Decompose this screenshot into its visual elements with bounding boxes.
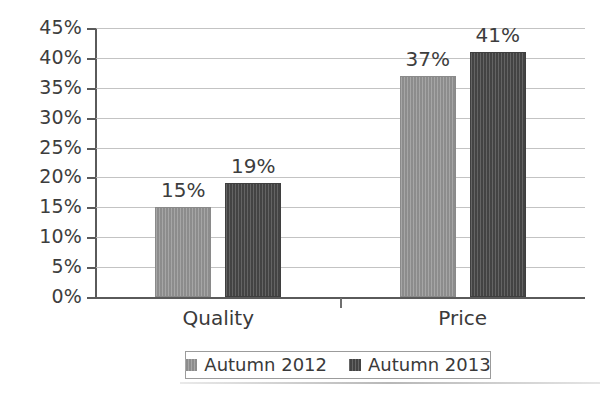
y-axis-tick-label: 15% [20, 197, 82, 216]
y-axis-tick [87, 237, 96, 239]
bar [400, 76, 456, 297]
y-axis-tick-label: 30% [20, 108, 82, 127]
y-axis-tick [87, 297, 96, 299]
bar-value-label: 41% [458, 25, 538, 45]
y-axis-tick [87, 118, 96, 120]
chart-legend: Autumn 2012Autumn 2013 [185, 351, 491, 379]
y-axis-tick-label: 25% [20, 138, 82, 157]
legend-item: Autumn 2013 [349, 356, 491, 374]
legend-swatch-icon [185, 359, 197, 371]
plot-area [96, 28, 585, 297]
x-axis-separator-tick [340, 298, 342, 308]
y-axis-tick [87, 177, 96, 179]
legend-item: Autumn 2012 [185, 356, 327, 374]
x-axis-category-label: Price [383, 307, 543, 329]
bar [225, 183, 281, 297]
x-axis-category-label: Quality [138, 307, 298, 329]
bar-chart: 45%40%35%30%25%20%15%10%5%0% QualityPric… [0, 0, 606, 411]
legend-label: Autumn 2012 [204, 356, 327, 374]
y-axis-tick-label: 10% [20, 227, 82, 246]
y-axis-tick-label: 40% [20, 48, 82, 67]
bar-value-label: 15% [143, 180, 223, 200]
y-axis-tick-label: 20% [20, 167, 82, 186]
scan-artifact [180, 382, 600, 384]
bar-value-label: 19% [213, 156, 293, 176]
y-axis-tick [87, 88, 96, 90]
y-axis-tick [87, 207, 96, 209]
bar-value-label: 37% [388, 49, 468, 69]
y-axis-tick [87, 148, 96, 150]
y-axis-tick-label: 35% [20, 78, 82, 97]
bar [155, 207, 211, 297]
legend-label: Autumn 2013 [368, 356, 491, 374]
y-axis-tick [87, 267, 96, 269]
bar [470, 52, 526, 297]
y-axis-tick [87, 28, 96, 30]
y-axis-tick-label: 45% [20, 18, 82, 37]
y-axis-tick-label: 0% [20, 287, 82, 306]
legend-swatch-icon [349, 359, 361, 371]
y-axis-tick [87, 58, 96, 60]
y-axis-tick-label: 5% [20, 257, 82, 276]
